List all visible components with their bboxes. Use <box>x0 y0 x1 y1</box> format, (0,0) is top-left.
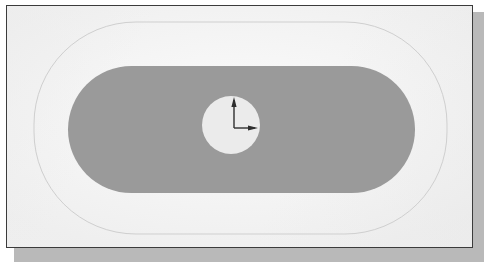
circular-hole[interactable] <box>202 96 260 154</box>
viewport-scene <box>0 0 487 262</box>
geometry-canvas[interactable] <box>7 6 473 248</box>
cad-viewport-panel[interactable] <box>6 5 473 248</box>
